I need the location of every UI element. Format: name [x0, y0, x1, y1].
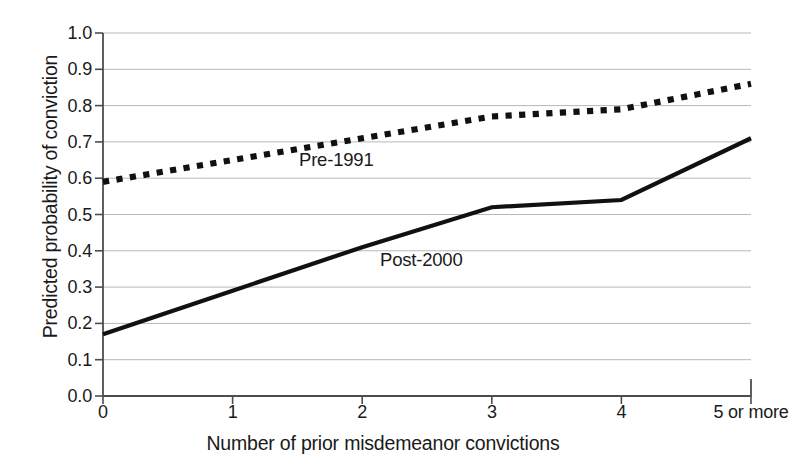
- series-label-pre-1991: Pre-1991: [299, 149, 374, 171]
- x-tick-label: 4: [616, 402, 626, 423]
- series-label-post-2000: Post-2000: [380, 249, 463, 271]
- x-tick-label: 1: [228, 402, 238, 423]
- chart-figure: Predicted probability of conviction 1.00…: [0, 0, 789, 474]
- x-tick-label: 2: [357, 402, 367, 423]
- x-axis-tick-labels: 012345 or more: [0, 0, 789, 474]
- x-tick-label: 5 or more: [713, 402, 788, 423]
- x-tick-label: 3: [487, 402, 497, 423]
- x-tick-label: 0: [98, 402, 108, 423]
- x-axis-title: Number of prior misdemeanor convictions: [103, 432, 663, 455]
